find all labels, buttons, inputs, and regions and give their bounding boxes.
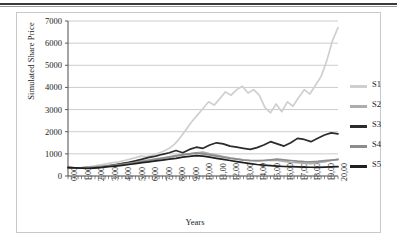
legend-swatch-icon (350, 125, 367, 128)
legend-label: S4 (372, 139, 381, 149)
legend-swatch-icon (350, 85, 367, 88)
legend-swatch-icon (350, 165, 367, 168)
legend-label: S2 (372, 99, 381, 109)
legend-swatch-icon (350, 145, 367, 148)
legend-label: S1 (372, 79, 381, 89)
legend-swatch-icon (350, 105, 367, 108)
legend-label: S5 (372, 159, 381, 169)
plot-canvas (0, 0, 397, 247)
chart-area: Simulated Share Price 700060005000400030… (0, 0, 397, 247)
legend-label: S3 (372, 119, 381, 129)
